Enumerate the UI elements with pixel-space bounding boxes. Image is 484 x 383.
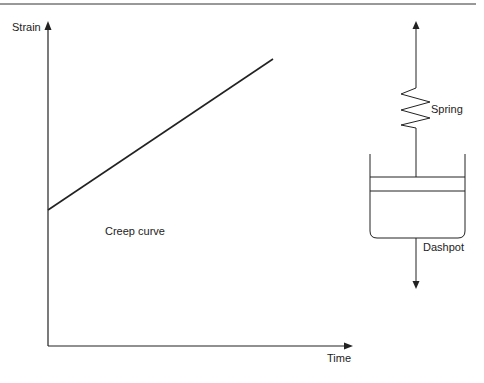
time-axis-label: Time [327, 353, 351, 364]
arrow-up-icon [45, 21, 52, 30]
strain-axis [45, 21, 52, 346]
spring-icon [401, 88, 430, 128]
spring-label: Spring [431, 104, 463, 115]
time-axis [48, 343, 353, 350]
dashpot-label: Dashpot [423, 242, 464, 253]
arrow-right-icon [344, 343, 353, 350]
dashpot-icon [370, 154, 465, 238]
arrow-up-icon [413, 21, 420, 29]
strain-axis-label: Strain [12, 22, 41, 33]
creep-curve-line [48, 59, 273, 210]
arrow-down-icon [413, 281, 420, 289]
creep-figure [0, 0, 484, 383]
creep-curve-label: Creep curve [105, 226, 165, 237]
